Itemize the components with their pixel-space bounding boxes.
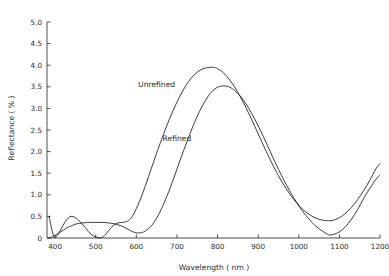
y-tick-label: 0 (37, 234, 42, 243)
y-tick-label: 4.5 (31, 39, 42, 48)
x-tick-label: 1200 (371, 242, 389, 251)
y-tick-label: 4.0 (31, 61, 43, 70)
curve-label-unrefined: Unrefined (138, 80, 175, 89)
reflectance-spectrum-chart: 00.51.01.52.02.53.03.54.04.55.0 40050060… (0, 0, 389, 276)
series-line-refined (49, 86, 380, 238)
x-tick-label: 400 (48, 242, 62, 251)
y-tick-label: 5.0 (31, 18, 43, 27)
curve-label-refined: Refined (163, 134, 192, 143)
y-tick-label: 1.5 (31, 169, 42, 178)
y-tick-label: 1.0 (31, 190, 43, 199)
y-axis-title: Reflectance ( % ) (7, 96, 16, 161)
x-tick-label: 800 (211, 242, 225, 251)
y-tick-label: 3.5 (31, 82, 42, 91)
y-axis: 00.51.01.52.02.53.03.54.04.55.0 (31, 18, 51, 243)
y-tick-label: 0.5 (31, 212, 42, 221)
series-line-unrefined (49, 67, 380, 238)
x-axis: 400500600700800900100011001200 (47, 235, 389, 252)
x-tick-label: 600 (129, 242, 143, 251)
x-tick-label: 700 (170, 242, 184, 251)
x-tick-label: 1100 (330, 242, 349, 251)
x-tick-label: 900 (251, 242, 265, 251)
series-layer (49, 67, 380, 238)
x-axis-title: Wavelength ( nm ) (179, 263, 249, 272)
x-tick-label: 500 (89, 242, 103, 251)
x-tick-label: 1000 (290, 242, 309, 251)
y-tick-label: 2.5 (31, 126, 42, 135)
y-tick-label: 2.0 (31, 147, 43, 156)
chart-canvas: 00.51.01.52.02.53.03.54.04.55.0 40050060… (0, 0, 389, 276)
y-tick-label: 3.0 (31, 104, 43, 113)
